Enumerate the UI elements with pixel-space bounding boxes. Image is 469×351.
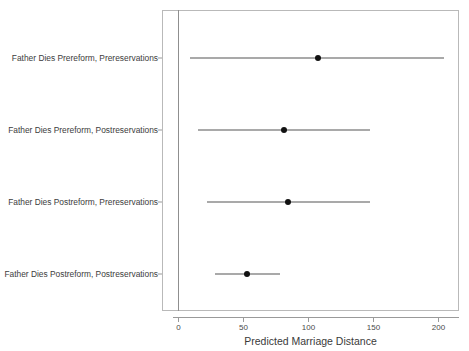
category-tick <box>158 130 162 131</box>
x-axis-tick-label: 50 <box>239 324 248 332</box>
interval-row <box>184 51 450 65</box>
x-axis-tick <box>373 318 374 322</box>
estimate-point-marker <box>285 199 291 205</box>
category-label: Father Dies Postreform, Postreservations <box>0 270 158 278</box>
zero-reference-line <box>178 10 179 311</box>
category-label: Father Dies Postreform, Prereservations <box>0 198 158 206</box>
x-axis-tick-label: 100 <box>302 324 315 332</box>
x-axis-tick-label: 150 <box>367 324 380 332</box>
x-axis-title: Predicted Marriage Distance <box>162 336 459 347</box>
category-tick <box>158 274 162 275</box>
estimate-point-marker <box>244 271 250 277</box>
x-axis-tick <box>438 318 439 322</box>
x-axis-line <box>173 317 459 318</box>
interval-row <box>192 123 376 137</box>
x-axis-tick-label: 200 <box>432 324 445 332</box>
interval-row <box>209 267 286 281</box>
x-axis-tick-label: 0 <box>176 324 180 332</box>
x-axis-tick <box>178 318 179 322</box>
interval-row <box>201 195 376 209</box>
category-tick <box>158 202 162 203</box>
estimate-point-marker <box>315 55 321 61</box>
x-axis-tick <box>243 318 244 322</box>
category-tick <box>158 58 162 59</box>
category-label: Father Dies Prereform, Postreservations <box>0 126 158 134</box>
category-label: Father Dies Prereform, Prereservations <box>0 54 158 62</box>
chart-root: Father Dies Prereform, PrereservationsFa… <box>0 0 469 351</box>
estimate-point-marker <box>281 127 287 133</box>
x-axis-tick <box>308 318 309 322</box>
